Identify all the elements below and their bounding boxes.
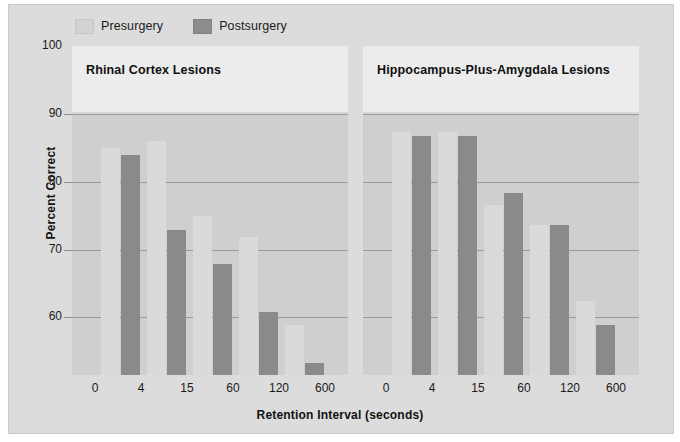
bar-postsurgery-120 [305, 363, 324, 375]
x-tick-label-right-60: 60 [504, 381, 544, 395]
y-tick-mark-60 [64, 317, 72, 318]
bars-left [72, 46, 348, 375]
bar-presurgery-0 [392, 132, 411, 375]
legend-label-presurgery: Presurgery [101, 19, 163, 33]
bar-presurgery-60 [530, 225, 549, 375]
bar-presurgery-0 [101, 148, 120, 375]
legend-item-presurgery: Presurgery [75, 19, 163, 34]
x-axis-title: Retention Interval (seconds) [0, 408, 680, 422]
bar-presurgery-60 [239, 237, 258, 375]
y-tick-label-100: 100 [28, 38, 62, 52]
y-tick-label-70: 70 [28, 242, 62, 256]
bar-postsurgery-120 [596, 325, 615, 375]
y-tick-label-80: 80 [28, 174, 62, 188]
bar-postsurgery-15 [213, 264, 232, 375]
x-tick-label-left-15: 15 [167, 381, 207, 395]
y-axis-title: Percent Correct [44, 133, 58, 253]
chart-legend: Presurgery Postsurgery [75, 16, 287, 36]
legend-item-postsurgery: Postsurgery [193, 19, 287, 34]
bar-presurgery-15 [484, 205, 503, 375]
legend-label-postsurgery: Postsurgery [219, 19, 287, 33]
bar-postsurgery-0 [412, 136, 431, 375]
x-tick-label-right-0: 0 [366, 381, 406, 395]
x-tick-label-right-600: 600 [596, 381, 636, 395]
bar-presurgery-120 [285, 325, 304, 375]
y-tick-label-60: 60 [28, 309, 62, 323]
x-tick-label-left-120: 120 [259, 381, 299, 395]
legend-swatch-presurgery [75, 19, 94, 34]
y-tick-mark-80 [64, 182, 72, 183]
y-tick-label-90: 90 [28, 106, 62, 120]
x-tick-label-left-0: 0 [75, 381, 115, 395]
bar-postsurgery-4 [458, 136, 477, 375]
bar-presurgery-120 [576, 301, 595, 375]
y-tick-mark-90 [64, 114, 72, 115]
bar-postsurgery-15 [504, 193, 523, 375]
x-tick-label-left-4: 4 [121, 381, 161, 395]
y-tick-mark-70 [64, 250, 72, 251]
legend-swatch-postsurgery [193, 19, 212, 34]
x-tick-label-right-120: 120 [550, 381, 590, 395]
bar-presurgery-15 [193, 216, 212, 375]
x-tick-label-right-15: 15 [458, 381, 498, 395]
bar-postsurgery-60 [550, 225, 569, 375]
panel-rhinal-cortex-lesions: Rhinal Cortex Lesions [72, 46, 348, 375]
figure-root: Presurgery Postsurgery Percent Correct 1… [0, 0, 680, 442]
bar-presurgery-4 [438, 132, 457, 375]
bar-presurgery-4 [147, 141, 166, 375]
panel-hippocampus-plus-amygdala-lesions: Hippocampus-Plus-Amygdala Lesions [363, 46, 639, 375]
x-tick-label-left-60: 60 [213, 381, 253, 395]
x-tick-label-right-4: 4 [412, 381, 452, 395]
bars-right [363, 46, 639, 375]
bar-postsurgery-4 [167, 230, 186, 375]
x-tick-label-left-600: 600 [305, 381, 345, 395]
bar-postsurgery-60 [259, 312, 278, 375]
bar-postsurgery-0 [121, 155, 140, 375]
